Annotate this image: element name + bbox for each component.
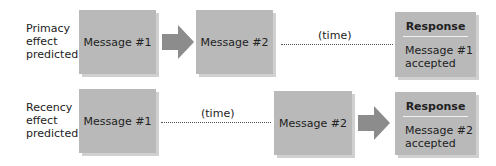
response-body: Message #2 accepted [405,124,473,150]
recency-response-box: Response Message #2 accepted [395,92,476,155]
response-line: Message #2 [405,124,473,137]
label-line: effect [26,35,82,48]
response-line: Message #1 [405,44,473,57]
time-dotted-line [281,44,393,45]
recency-label: Recency effect predicted: [26,101,82,140]
response-line: accepted [405,137,473,150]
primacy-message-1-box: Message #1 [79,10,156,74]
message-text: Message #2 [196,36,273,49]
time-dotted-line [161,122,271,123]
message-text: Message #2 [274,117,352,130]
label-line: predicted: [26,48,82,61]
primacy-message-2-box: Message #2 [196,10,273,74]
label-line: predicted: [26,127,82,140]
time-label: (time) [201,107,234,120]
label-line: Primacy [26,22,82,35]
arrow-right-icon [358,106,390,140]
primacy-response-box: Response Message #1 accepted [395,12,476,77]
recency-message-1-box: Message #1 [79,89,156,153]
label-line: effect [26,114,82,127]
message-text: Message #1 [79,115,156,128]
primacy-label: Primacy effect predicted: [26,22,82,61]
message-text: Message #1 [79,36,156,49]
recency-message-2-box: Message #2 [274,91,352,155]
arrow-right-icon [162,25,194,59]
response-body: Message #1 accepted [405,44,473,70]
label-line: Recency [26,101,82,114]
response-title: Response [403,100,468,117]
response-title: Response [403,20,468,37]
time-label: (time) [318,29,351,42]
response-line: accepted [405,57,473,70]
